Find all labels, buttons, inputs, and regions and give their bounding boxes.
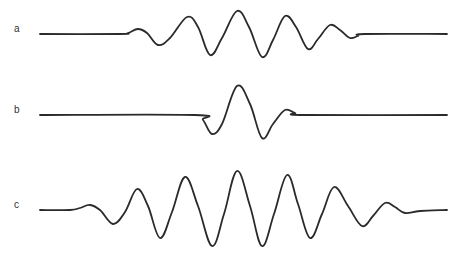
trace-label-a: a — [14, 23, 20, 34]
wave-packet-figure: a b c — [0, 0, 465, 263]
trace-label-b: b — [14, 104, 20, 115]
waveform-canvas — [0, 0, 465, 263]
waveform-c — [40, 171, 447, 246]
trace-label-c: c — [14, 199, 19, 210]
waveform-a — [40, 11, 447, 58]
waveform-b — [40, 85, 447, 138]
